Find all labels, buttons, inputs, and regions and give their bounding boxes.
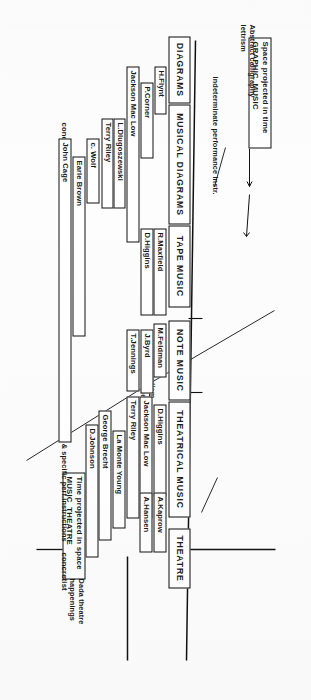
person-name: c. Wolf xyxy=(89,142,97,167)
person-bar-d-higgins-1[interactable]: D.Higgins xyxy=(140,228,153,315)
person-name: L.Dlugoszewski xyxy=(115,122,123,180)
person-bar-earle-brown[interactable]: Earle Brown xyxy=(72,156,85,336)
person-bar-d-johnson[interactable]: D.Johnson xyxy=(85,424,98,557)
category-label: DIAGRAMS xyxy=(174,43,184,97)
category-note-music[interactable]: NOTE MUSIC xyxy=(168,320,190,400)
person-name: La Monte Young xyxy=(115,434,123,494)
person-bar-l-dlugoszewski[interactable]: L.Dlugoszewski xyxy=(113,118,125,208)
category-label: NOTE MUSIC xyxy=(174,329,184,392)
annotation-indeterminate-performance: indeterminate performance instr. xyxy=(210,76,219,256)
person-name: Jackson Mac Low xyxy=(142,400,150,466)
person-name: Terry Riley xyxy=(129,400,137,440)
person-name: T.Jennings xyxy=(129,333,137,373)
axis-label-concretist-bottom: concretist xyxy=(59,552,68,590)
person-bar-terry-riley-1[interactable]: Terry Riley xyxy=(101,118,113,208)
person-name: A.Hansen xyxy=(142,496,150,532)
category-label: THEATRE xyxy=(174,535,184,581)
person-bar-john-cage[interactable]: John Cage xyxy=(58,138,71,442)
person-bar-la-monte-young[interactable]: La Monte Young xyxy=(112,430,125,528)
person-name: George Brecht xyxy=(101,414,109,468)
person-bar-a-kaprow[interactable]: A.Kaprow xyxy=(153,492,166,552)
person-name: Terry Riley xyxy=(103,122,111,162)
person-bar-c-wolf[interactable]: c. Wolf xyxy=(86,138,99,203)
influence-line-1: Space projected in time xyxy=(260,41,269,144)
person-bar-george-brecht[interactable]: George Brecht xyxy=(98,410,111,540)
person-name: P.Corner xyxy=(143,86,151,118)
person-bar-a-hansen[interactable]: A.Hansen xyxy=(139,492,152,552)
person-name: John Cage xyxy=(61,142,69,182)
person-bar-d-higgins-2[interactable]: D.Higgins xyxy=(153,404,166,496)
person-bar-jackson-mac-low-1[interactable]: Jackson Mac Low xyxy=(126,66,139,242)
person-name: M.Feldman xyxy=(156,327,164,368)
person-name: H.Flynt xyxy=(156,70,164,96)
category-label: THEATRICAL MUSIC xyxy=(174,410,184,509)
influence-line-1: Time projected in space xyxy=(74,476,83,575)
category-musical-diagrams[interactable]: MUSICAL DIAGRAMS xyxy=(168,104,190,224)
axis-text: concretist xyxy=(59,552,68,590)
person-name: A.Kaprow xyxy=(156,496,164,532)
person-bar-m-feldman[interactable]: M.Feldman xyxy=(153,323,166,377)
person-name: R.Maxfield xyxy=(156,232,164,271)
annotation-text: indeterminate performance instr. xyxy=(210,76,219,194)
category-label: TAPE MUSIC xyxy=(174,235,184,296)
category-theatrical-music[interactable]: THEATRICAL MUSIC xyxy=(168,401,190,517)
category-label: MUSICAL DIAGRAMS xyxy=(174,113,184,216)
category-diagrams[interactable]: DIAGRAMS xyxy=(168,36,190,103)
category-theatre[interactable]: THEATRE xyxy=(168,528,190,588)
person-bar-h-flynt[interactable]: H.Flynt xyxy=(154,66,166,114)
person-name: J.Byrd xyxy=(143,333,151,357)
annotation-text: Abstract calligraphy lettrism xyxy=(238,24,256,97)
annotation-abstract-calligraphy: Abstract calligraphy lettrism xyxy=(238,24,256,144)
person-name: D.Higgins xyxy=(156,408,164,444)
diagram-canvas: DIAGRAMS MUSICAL DIAGRAMS TAPE MUSIC NOT… xyxy=(0,0,311,700)
category-tape-music[interactable]: TAPE MUSIC xyxy=(168,225,190,307)
person-bar-terry-riley-2[interactable]: Terry Riley xyxy=(126,396,139,518)
person-bar-r-maxfield[interactable]: R.Maxfield xyxy=(153,228,166,315)
person-name: Earle Brown xyxy=(75,160,83,205)
person-bar-j-byrd[interactable]: J.Byrd xyxy=(140,329,153,393)
person-name: Jackson Mac Low xyxy=(129,70,137,136)
person-bar-p-corner[interactable]: P.Corner xyxy=(140,82,153,158)
person-bar-t-jennings[interactable]: T.Jennings xyxy=(126,329,139,391)
annotation-dada-theatre: Dada theatre happenings xyxy=(67,578,85,688)
person-name: D.Johnson xyxy=(88,428,96,468)
person-name: D.Higgins xyxy=(143,232,151,268)
annotation-text: Dada theatre happenings xyxy=(67,578,85,624)
